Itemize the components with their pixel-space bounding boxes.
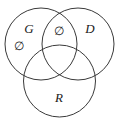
set-circle-d bbox=[42, 8, 114, 80]
set-circle-r bbox=[24, 45, 96, 117]
empty-set-symbol-region-g-and-d: ∅ bbox=[54, 24, 64, 38]
set-label-d: D bbox=[84, 21, 95, 36]
empty-set-symbol-region-g-only: ∅ bbox=[14, 39, 24, 53]
set-label-r: R bbox=[54, 90, 63, 105]
venn-diagram-canvas: G D R ∅ ∅ bbox=[0, 0, 119, 123]
venn-diagram-figure: G D R ∅ ∅ bbox=[0, 0, 119, 123]
set-label-g: G bbox=[24, 21, 34, 36]
